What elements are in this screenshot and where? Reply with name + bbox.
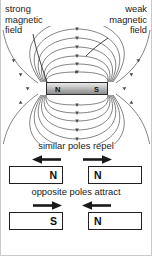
attract-panel: opposite poles attract S N (0, 186, 152, 231)
repel-right-arrow-right-icon (82, 155, 112, 164)
magnetism-figure: strong magnetic field weak magnetic fiel… (0, 0, 152, 256)
repel-magnet-row: N N (0, 166, 152, 185)
repel-right-magnet: N (88, 166, 142, 184)
bar-magnet-north-pole: N (55, 84, 60, 93)
attract-left-magnet: S (9, 212, 63, 230)
attract-left-magnet-pole: S (50, 215, 57, 227)
repel-left-magnet: N (9, 166, 63, 184)
repel-arrow-row (0, 153, 152, 166)
bar-magnet-south-pole: S (94, 84, 99, 93)
attract-arrow-row (0, 199, 152, 212)
repel-right-magnet-pole: N (94, 169, 102, 181)
attract-caption: opposite poles attract (0, 186, 152, 198)
repel-panel: similar poles repel N N (0, 140, 152, 185)
repel-left-arrow-left-icon (32, 155, 62, 164)
repel-caption: similar poles repel (0, 140, 152, 152)
attract-right-magnet-pole: N (94, 215, 102, 227)
bar-magnet: N S (46, 82, 108, 95)
attract-magnet-row: S N (0, 212, 152, 231)
repel-left-magnet-pole: N (49, 169, 57, 181)
attract-right-arrow-left-icon (82, 201, 112, 210)
attract-left-arrow-right-icon (32, 201, 62, 210)
leader-line-weak (86, 38, 108, 56)
attract-right-magnet: N (88, 212, 142, 230)
